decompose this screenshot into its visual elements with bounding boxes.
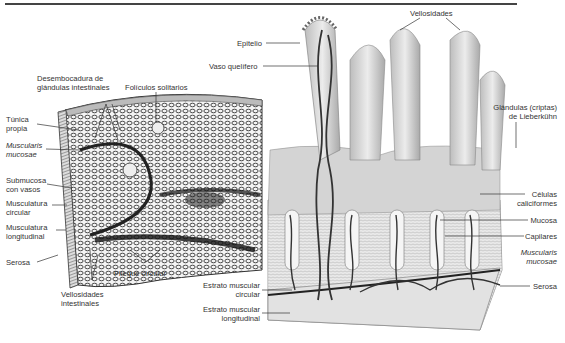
left-section-drawing — [58, 94, 262, 288]
label-serosa-right: Serosa — [533, 282, 557, 291]
label-muscularis-mucosae-right: Muscularis mucosae — [521, 248, 557, 266]
label-capilares: Capilares — [525, 232, 557, 241]
label-epitelio: Epitelio — [237, 39, 262, 48]
label-estrato-circular: Estrato muscular circular — [203, 281, 260, 299]
label-pliegue-circular: Pliegue circular — [114, 269, 166, 278]
label-submucosa: Submucosa con vasos — [6, 176, 46, 194]
label-muscularis-mucosae-left: Muscularis mucosae — [6, 141, 42, 159]
label-tunica-propia: Túnica propia — [6, 115, 29, 133]
label-desembocadura: Desembocadura de glándulas intestinales — [37, 74, 110, 92]
label-musculatura-longitudinal: Musculatura longitudinal — [6, 223, 47, 241]
label-musculatura-circular: Musculatura circular — [6, 199, 47, 217]
label-foliculos-solitarios: Folículos solitarios — [125, 83, 187, 92]
label-vellosidades: Vellosidades — [410, 9, 453, 18]
label-serosa-left: Serosa — [6, 258, 30, 267]
label-vellosidades-intestinales: Vellosidades intestinales — [61, 290, 104, 308]
label-vaso-quelifero: Vaso quelífero — [209, 62, 257, 71]
intestine-anatomy-figure: Desembocadura de glándulas intestinales … — [0, 0, 565, 343]
label-mucosa: Mucosa — [530, 216, 557, 225]
label-celulas-caliciformes: Células caliciformes — [517, 190, 557, 208]
label-glandulas-lieberkuhn: Glándulas (criptas) de Lieberkühn — [493, 103, 557, 121]
right-section-drawing — [268, 18, 505, 331]
label-estrato-longitudinal: Estrato muscular longitudinal — [203, 305, 260, 323]
